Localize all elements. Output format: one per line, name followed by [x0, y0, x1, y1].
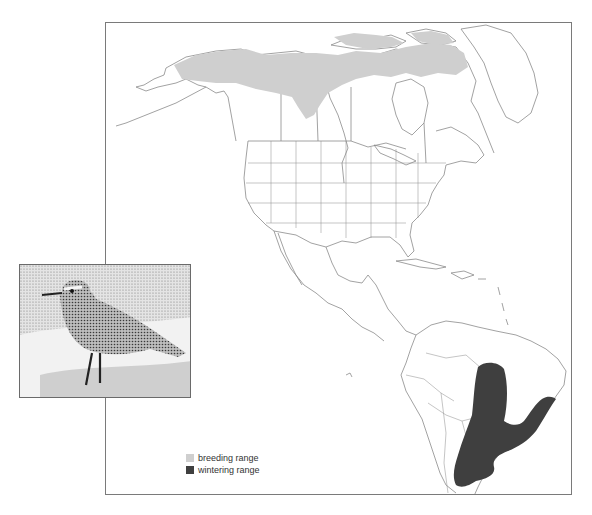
legend-label-breeding: breeding range [198, 452, 259, 464]
legend-item-wintering: wintering range [186, 464, 260, 476]
plover-illustration [20, 265, 191, 398]
wintering-range-area [454, 363, 556, 487]
legend-item-breeding: breeding range [186, 452, 260, 464]
legend-label-wintering: wintering range [198, 464, 260, 476]
americas-outline-map [106, 23, 572, 495]
breeding-range-area [174, 31, 468, 119]
breeding-swatch [186, 454, 194, 462]
page-header-fragment [430, 0, 590, 4]
map-legend: breeding range wintering range [186, 452, 260, 476]
wintering-swatch [186, 466, 194, 474]
bird-illustration-inset [19, 264, 191, 398]
range-map [105, 22, 572, 495]
